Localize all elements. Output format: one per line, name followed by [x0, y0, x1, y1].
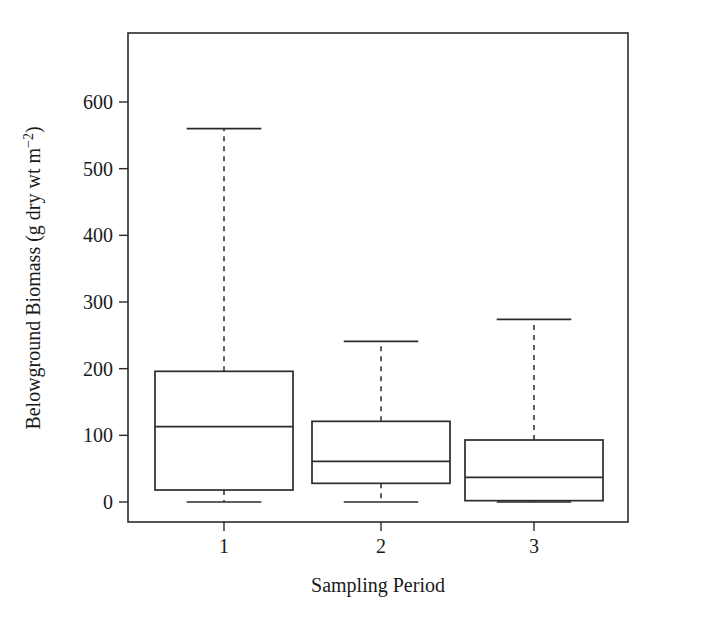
box-plot-item — [465, 319, 603, 502]
y-tick-label: 500 — [83, 158, 113, 180]
y-tick-label: 100 — [83, 424, 113, 446]
x-axis-ticks: 123 — [219, 522, 539, 557]
box-rect — [465, 440, 603, 501]
plot-frame — [128, 33, 628, 522]
svg-text:Belowground Biomass (g dry wt: Belowground Biomass (g dry wt m−2) — [21, 126, 45, 429]
y-tick-label: 600 — [83, 91, 113, 113]
box-plot-series — [155, 129, 603, 502]
x-tick-label: 1 — [219, 535, 229, 557]
y-axis-ticks: 0100200300400500600 — [83, 91, 128, 513]
x-axis-title: Sampling Period — [311, 574, 445, 597]
box-rect — [155, 371, 293, 490]
figure-container: 0100200300400500600 123 Sampling Period … — [0, 0, 707, 618]
box-plot-item — [312, 341, 450, 502]
y-axis-title-main: Belowground Biomass (g dry wt m — [22, 148, 45, 430]
y-axis-title-closing: ) — [22, 126, 45, 133]
y-tick-label: 200 — [83, 358, 113, 380]
box-plot-chart: 0100200300400500600 123 Sampling Period … — [0, 0, 707, 618]
y-axis-title: Belowground Biomass (g dry wt m−2) — [21, 126, 45, 429]
y-tick-label: 400 — [83, 224, 113, 246]
box-rect — [312, 421, 450, 483]
x-tick-label: 2 — [376, 535, 386, 557]
x-tick-label: 3 — [529, 535, 539, 557]
y-tick-label: 300 — [83, 291, 113, 313]
y-tick-label: 0 — [103, 491, 113, 513]
y-axis-title-superscript: −2 — [21, 133, 36, 148]
box-plot-item — [155, 129, 293, 502]
